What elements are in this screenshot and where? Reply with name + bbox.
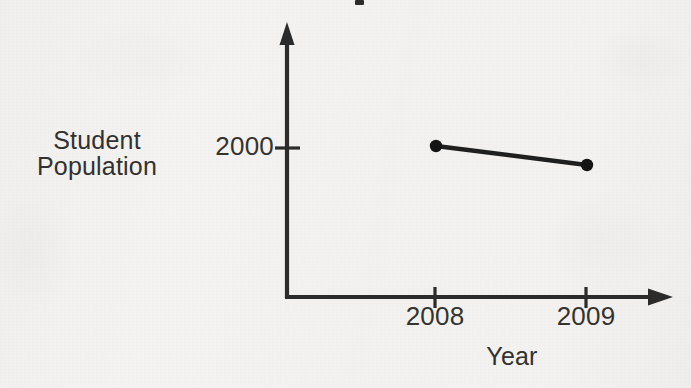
chart-page: Student Population 2000 2008 2009 Year [0,0,691,388]
y-axis-arrow-up-icon [280,22,295,45]
data-point-marker-2009 [581,159,593,171]
data-line-segment [436,146,587,165]
x-axis-arrow-right-icon [648,289,673,306]
data-point-marker-2008 [430,140,442,152]
line-chart-plot [0,0,691,388]
